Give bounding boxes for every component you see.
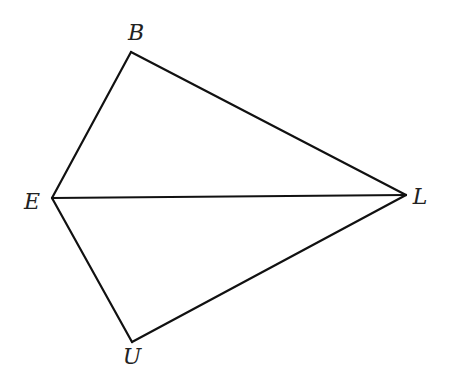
vertex-label-u: U: [123, 344, 143, 369]
vertex-label-l: L: [412, 184, 428, 209]
vertex-label-e: E: [23, 189, 40, 214]
segment-UL: [132, 195, 406, 342]
segment-EU: [52, 198, 132, 342]
segment-BL: [131, 52, 406, 195]
vertex-label-b: B: [127, 20, 144, 45]
geometry-diagram: B E L U: [0, 0, 450, 390]
segment-EL: [52, 195, 406, 198]
segment-BE: [52, 52, 131, 198]
